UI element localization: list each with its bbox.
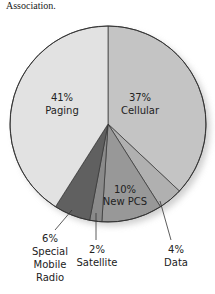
label-satellite-pct: 2%: [89, 244, 105, 255]
label-data-name: Data: [164, 257, 188, 268]
label-smr-name3: Radio: [36, 272, 64, 283]
label-data-pct: 4%: [168, 244, 184, 255]
pie-slices: [10, 26, 206, 222]
label-smr-pct: 6%: [42, 233, 58, 244]
label-newpcs-pct: 10%: [114, 184, 136, 195]
label-paging-pct: 41%: [51, 92, 73, 103]
label-cellular-name: Cellular: [121, 105, 160, 116]
label-satellite-name: Satellite: [77, 257, 118, 268]
label-newpcs-name: New PCS: [103, 196, 147, 207]
label-smr-name1: Special: [32, 246, 68, 257]
label-cellular-pct: 37%: [129, 92, 151, 103]
label-smr-name2: Mobile: [34, 259, 67, 270]
pie-chart: 37% Cellular 41% Paging 10% New PCS 4% D…: [0, 0, 215, 294]
label-paging-name: Paging: [45, 105, 79, 116]
